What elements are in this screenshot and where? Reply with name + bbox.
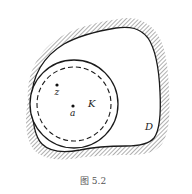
label-k: K [87, 98, 96, 109]
figure-diagram: z a K D 图 5.2 [0, 0, 192, 194]
label-a: a [70, 108, 75, 118]
figure-caption: 图 5.2 [80, 176, 106, 186]
circle-k [30, 60, 118, 148]
label-d: D [144, 121, 153, 132]
label-z: z [54, 87, 60, 97]
